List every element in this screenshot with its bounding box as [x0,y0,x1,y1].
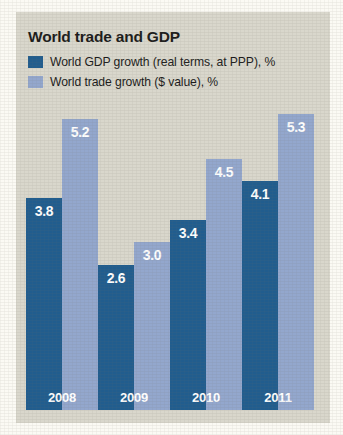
bar-value-label: 5.2 [62,124,98,140]
bar-group: 2.63.02009 [98,30,170,410]
bar-group: 3.44.52010 [170,30,242,410]
bar: 4.5 [206,159,242,410]
bar: 5.2 [62,119,98,410]
bar-value-label: 3.8 [26,203,62,219]
bar: 3.8 [26,198,62,410]
plot-area: World trade and GDP World GDP growth (re… [16,12,330,423]
bar: 5.3 [278,114,314,410]
bar: 3.0 [134,242,170,410]
bar: 2.6 [98,265,134,410]
bar-value-label: 5.3 [278,119,314,135]
bar-value-label: 3.4 [170,225,206,241]
bar-value-label: 2.6 [98,270,134,286]
bar: 3.4 [170,220,206,410]
bar-value-label: 4.5 [206,164,242,180]
bar-value-label: 3.0 [134,247,170,263]
bar-group: 3.85.22008 [26,30,98,410]
bar-group: 4.15.32011 [242,30,314,410]
chart-figure: World trade and GDP World GDP growth (re… [0,0,343,435]
bar: 4.1 [242,181,278,410]
bar-value-label: 4.1 [242,186,278,202]
